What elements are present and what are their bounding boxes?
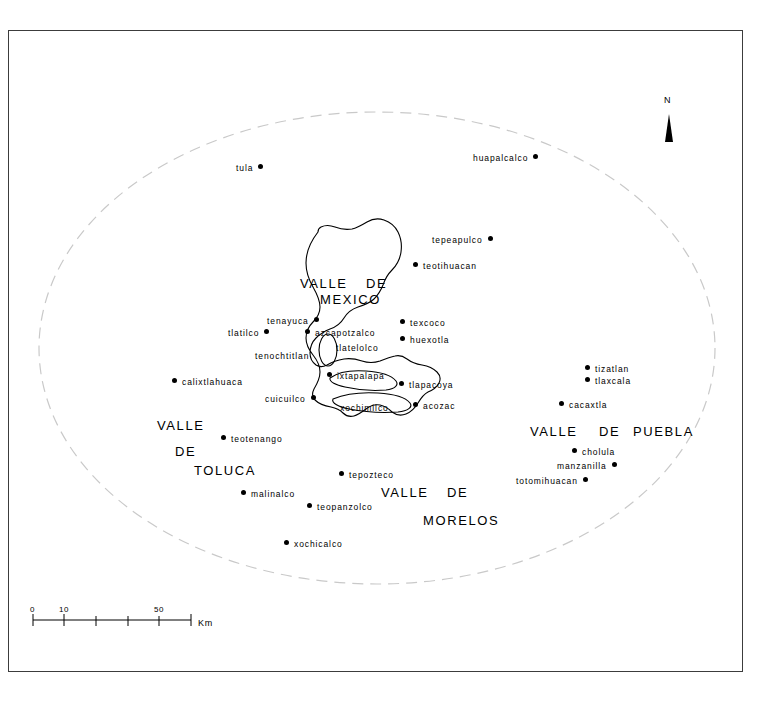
site-huexotla[interactable]: huexotla — [400, 334, 449, 345]
site-dot-huapalcalco — [533, 154, 538, 159]
scale-unit-label: Km — [198, 618, 213, 628]
site-cacaxtla[interactable]: cacaxtla — [559, 399, 607, 410]
site-xochicalco[interactable]: xochicalco — [284, 538, 343, 549]
site-dot-tepeapulco — [488, 236, 493, 241]
site-dot-cacaxtla — [559, 401, 564, 406]
site-malinalco[interactable]: malinalco — [241, 488, 295, 499]
scale-tick-10: 10 — [59, 605, 69, 614]
region-valle-de-morelos-word-morelos: MORELOS — [423, 513, 499, 528]
site-cholula[interactable]: cholula — [572, 446, 615, 457]
site-dot-acozac — [413, 402, 418, 407]
map-canvas: N 0 10 50 Km VALLE DE MEXICO VALLE DE TO… — [0, 0, 774, 705]
site-teotihuacan[interactable]: teotihuacan — [413, 260, 477, 271]
site-tenayuca[interactable]: tenayuca — [267, 315, 319, 326]
region-valle-de-puebla-word-de: DE — [599, 424, 620, 439]
site-tizatlan[interactable]: tizatlan — [585, 363, 629, 374]
site-label-tlatelolco: tlatelolco — [336, 343, 379, 353]
site-dot-manzanilla — [612, 462, 617, 467]
site-tlatelolco[interactable]: tlatelolco — [336, 342, 379, 353]
site-dot-tlatilco — [264, 329, 269, 334]
region-valle-de-mexico-word-mexico: MEXICO — [320, 292, 381, 307]
site-dot-azcapotzalco — [305, 329, 310, 334]
site-dot-tlaxcala — [585, 377, 590, 382]
site-dot-tizatlan — [585, 365, 590, 370]
site-teotenango[interactable]: teotenango — [221, 433, 283, 444]
site-label-malinalco: malinalco — [251, 489, 295, 499]
site-label-tepeapulco: tepeapulco — [432, 235, 483, 245]
site-label-tenayuca: tenayuca — [267, 316, 309, 326]
site-dot-calixtlahuaca — [172, 378, 177, 383]
site-calixtlahuaca[interactable]: calixtlahuaca — [172, 376, 243, 387]
site-label-huexotla: huexotla — [410, 335, 449, 345]
region-valle-de-morelos-word-valle: VALLE — [381, 485, 429, 500]
site-dot-totomihuacan — [583, 477, 588, 482]
site-label-xochicalco: xochicalco — [294, 539, 343, 549]
site-dot-cholula — [572, 448, 577, 453]
site-cuicuilco[interactable]: cuicuilco — [265, 393, 316, 404]
site-texcoco[interactable]: texcoco — [400, 317, 446, 328]
site-dot-ixtapalapa — [327, 372, 332, 377]
site-label-cuicuilco: cuicuilco — [265, 394, 306, 404]
site-label-teotenango: teotenango — [231, 434, 283, 444]
site-label-ixtapalapa: ixtapalapa — [337, 371, 385, 381]
site-label-cacaxtla: cacaxtla — [569, 400, 607, 410]
region-valle-de-toluca-word-de: DE — [175, 444, 196, 459]
site-tlaxcala[interactable]: tlaxcala — [585, 375, 631, 386]
site-tepozteco[interactable]: tepozteco — [339, 469, 394, 480]
site-tepeapulco[interactable]: tepeapulco — [432, 234, 493, 245]
site-tlapacoya[interactable]: tlapacoya — [399, 379, 454, 390]
site-dot-cuicuilco — [311, 395, 316, 400]
site-tula[interactable]: tula — [236, 162, 263, 173]
site-dot-tepozteco — [339, 471, 344, 476]
region-valle-de-mexico-word-valle: VALLE — [300, 276, 348, 291]
site-label-calixtlahuaca: calixtlahuaca — [182, 377, 243, 387]
site-azcapotzalco[interactable]: azcapotzalco — [305, 327, 375, 338]
site-dot-huexotla — [400, 336, 405, 341]
region-valle-de-puebla-word-puebla: PUEBLA — [633, 424, 694, 439]
site-label-teotihuacan: teotihuacan — [423, 261, 477, 271]
region-valle-de-mexico-word-de: DE — [366, 276, 387, 291]
region-valle-de-toluca-word-valle: VALLE — [157, 418, 205, 433]
site-dot-teotihuacan — [413, 262, 418, 267]
region-valle-de-morelos-word-de: DE — [447, 485, 468, 500]
region-valle-de-puebla-word-valle: VALLE — [530, 424, 578, 439]
site-totomihuacan[interactable]: totomihuacan — [516, 475, 588, 486]
site-label-xochimilco: xochimilco — [340, 403, 389, 413]
site-label-cholula: cholula — [582, 447, 615, 457]
site-huapalcalco[interactable]: huapalcalco — [473, 152, 538, 163]
region-valle-de-toluca-word-toluca: TOLUCA — [194, 463, 256, 478]
site-label-acozac: acozac — [423, 401, 455, 411]
scale-bar: 0 10 50 — [31, 605, 191, 633]
site-label-tenochtitlan: tenochtitlan — [255, 351, 309, 361]
site-dot-tula — [258, 164, 263, 169]
site-label-totomihuacan: totomihuacan — [516, 476, 578, 486]
site-label-azcapotzalco: azcapotzalco — [315, 328, 375, 338]
site-ixtapalapa[interactable]: ixtapalapa — [327, 370, 385, 381]
site-manzanilla[interactable]: manzanilla — [557, 460, 617, 471]
scale-tick-0: 0 — [30, 605, 35, 614]
site-label-teopanzolco: teopanzolco — [317, 502, 373, 512]
site-label-manzanilla: manzanilla — [557, 461, 607, 471]
site-dot-teopanzolco — [307, 503, 312, 508]
site-dot-tenayuca — [314, 317, 319, 322]
site-dot-tlapacoya — [399, 381, 404, 386]
site-teopanzolco[interactable]: teopanzolco — [307, 501, 373, 512]
site-tenochtitlan[interactable]: tenochtitlan — [255, 350, 309, 361]
site-tlatilco[interactable]: tlatilco — [228, 327, 269, 338]
site-label-tula: tula — [236, 163, 253, 173]
site-label-tlaxcala: tlaxcala — [595, 376, 631, 386]
site-acozac[interactable]: acozac — [413, 400, 455, 411]
site-label-tlatilco: tlatilco — [228, 328, 259, 338]
north-label: N — [664, 95, 671, 105]
site-label-huapalcalco: huapalcalco — [473, 153, 528, 163]
site-xochimilco[interactable]: xochimilco — [340, 402, 389, 413]
site-label-tlapacoya: tlapacoya — [409, 380, 454, 390]
site-label-tizatlan: tizatlan — [595, 364, 629, 374]
site-label-texcoco: texcoco — [410, 318, 446, 328]
site-dot-malinalco — [241, 490, 246, 495]
site-dot-texcoco — [400, 319, 405, 324]
site-dot-teotenango — [221, 435, 226, 440]
scale-tick-50: 50 — [154, 605, 164, 614]
site-label-tepozteco: tepozteco — [349, 470, 394, 480]
site-dot-xochicalco — [284, 540, 289, 545]
